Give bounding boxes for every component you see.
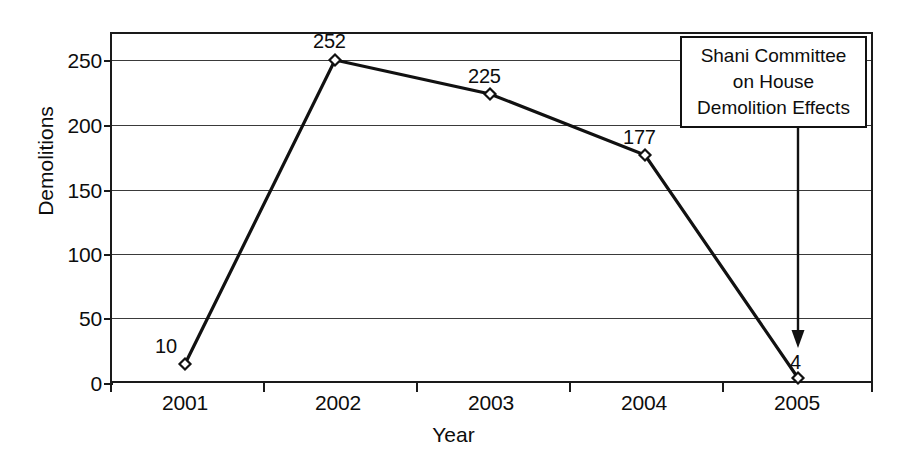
x-tick-mark-0 <box>110 383 112 392</box>
line-chart-figure: Demolitions 250 200 150 100 50 0 2001 20… <box>0 0 907 470</box>
annotation-callout-shani-committee: Shani Committee on House Demolition Effe… <box>680 36 867 128</box>
x-tick-mark-5 <box>871 383 873 392</box>
annotation-line-2: on House <box>733 69 814 95</box>
x-tick-label-2003: 2003 <box>441 392 541 414</box>
data-label-2004: 177 <box>623 127 656 147</box>
x-tick-mark-1 <box>263 383 265 392</box>
y-tick-label-250: 250 <box>42 50 102 71</box>
y-tick-label-200: 200 <box>42 115 102 136</box>
y-tick-label-100: 100 <box>42 244 102 265</box>
y-tick-label-50: 50 <box>42 308 102 329</box>
data-label-2003: 225 <box>468 66 501 86</box>
x-tick-mark-2 <box>416 383 418 392</box>
annotation-line-1: Shani Committee <box>701 43 847 69</box>
annotation-line-3: Demolition Effects <box>697 95 850 121</box>
x-tick-mark-3 <box>569 383 571 392</box>
y-tick-label-0: 0 <box>42 373 102 394</box>
gridline-100 <box>112 254 871 255</box>
x-tick-label-2005: 2005 <box>747 392 847 414</box>
y-axis-title: Demolitions <box>35 71 57 251</box>
x-tick-label-2004: 2004 <box>594 392 694 414</box>
x-tick-mark-4 <box>722 383 724 392</box>
gridline-50 <box>112 318 871 319</box>
gridline-150 <box>112 190 871 191</box>
data-label-2002: 252 <box>313 31 346 51</box>
x-tick-label-2001: 2001 <box>135 392 235 414</box>
y-tick-label-150: 150 <box>42 180 102 201</box>
data-label-2001: 10 <box>155 336 177 356</box>
x-axis-title: Year <box>0 424 907 446</box>
x-tick-label-2002: 2002 <box>288 392 388 414</box>
data-label-2005: 4 <box>790 352 801 372</box>
